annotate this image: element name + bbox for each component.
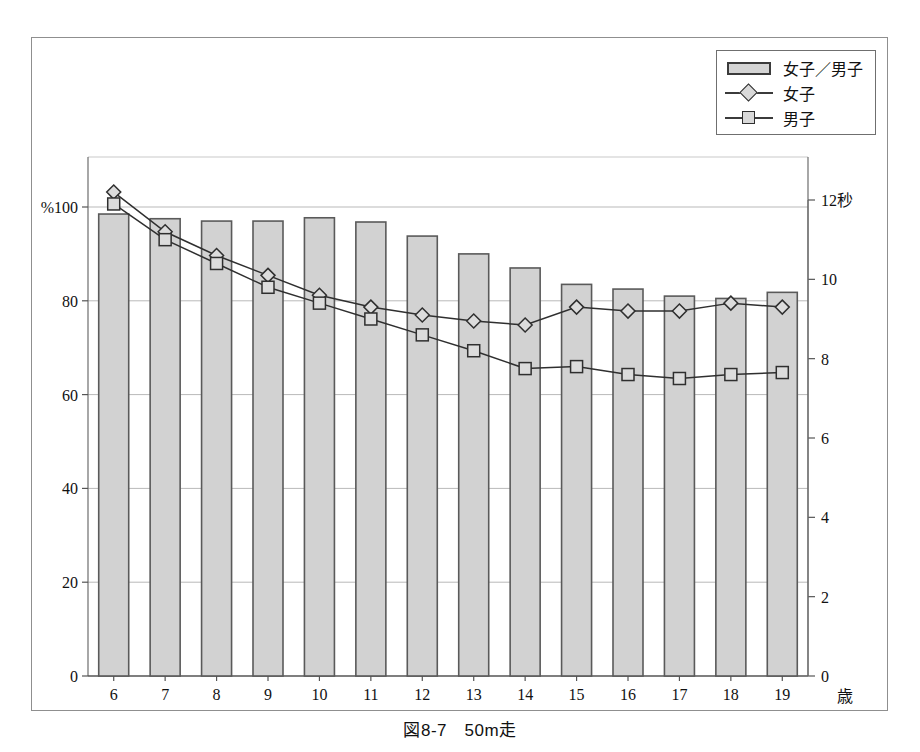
bar-19: [767, 292, 797, 676]
right-tick-0: 0: [821, 668, 829, 685]
left-tick-0: 0: [70, 668, 78, 685]
right-tick-2: 2: [821, 589, 829, 606]
x-tick-8: 8: [213, 686, 221, 703]
right-tick-10: 10: [821, 271, 837, 288]
legend-label-ratio: 女子／男子: [783, 56, 863, 80]
chart-legend: 女子／男子 女子 男子: [716, 50, 876, 135]
right-tick-6: 6: [821, 430, 829, 447]
legend-label-boys: 男子: [783, 106, 815, 130]
x-tick-14: 14: [517, 686, 533, 703]
x-tick-12: 12: [414, 686, 430, 703]
left-tick-40: 40: [62, 480, 78, 497]
right-tick-12: 12秒: [821, 192, 853, 209]
diamond-marker-icon: [723, 83, 775, 103]
legend-item-boys: 男子: [723, 105, 869, 130]
figure-50m-run: %100806040200024681012秒67891011121314151…: [0, 0, 920, 752]
figure-caption: 図8-7 50m走: [0, 716, 920, 741]
legend-label-girls: 女子: [783, 81, 815, 105]
bar-swatch-icon: [723, 58, 775, 78]
bar-17: [664, 296, 694, 676]
left-tick-60: 60: [62, 387, 78, 404]
x-tick-11: 11: [363, 686, 378, 703]
right-tick-4: 4: [821, 509, 829, 526]
bar-16: [613, 289, 643, 676]
bar-7: [150, 219, 180, 676]
bar-15: [562, 284, 592, 676]
legend-item-girls: 女子: [723, 80, 869, 105]
bar-10: [304, 218, 334, 676]
x-axis-unit-label: 歳: [837, 688, 853, 705]
bar-6: [99, 214, 129, 676]
left-tick-100: %100: [41, 199, 78, 216]
x-tick-10: 10: [311, 686, 327, 703]
x-tick-9: 9: [264, 686, 272, 703]
x-tick-6: 6: [110, 686, 118, 703]
bar-11: [356, 222, 386, 676]
x-tick-17: 17: [671, 686, 687, 703]
x-tick-18: 18: [723, 686, 739, 703]
bar-12: [407, 236, 437, 676]
bar-8: [202, 221, 232, 676]
left-tick-20: 20: [62, 574, 78, 591]
square-marker-icon: [723, 108, 775, 128]
x-tick-7: 7: [161, 686, 169, 703]
x-tick-16: 16: [620, 686, 636, 703]
x-tick-13: 13: [466, 686, 482, 703]
x-tick-15: 15: [569, 686, 585, 703]
left-tick-80: 80: [62, 293, 78, 310]
bar-18: [716, 298, 746, 676]
x-tick-19: 19: [774, 686, 790, 703]
legend-item-ratio: 女子／男子: [723, 55, 869, 80]
right-tick-8: 8: [821, 351, 829, 368]
